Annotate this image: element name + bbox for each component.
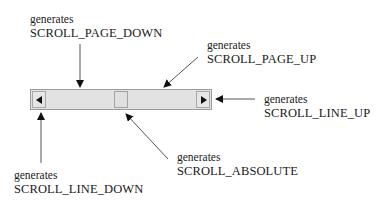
annotation-arrows <box>0 0 384 210</box>
arrow-page-up <box>164 57 198 87</box>
arrow-absolute <box>126 114 168 159</box>
